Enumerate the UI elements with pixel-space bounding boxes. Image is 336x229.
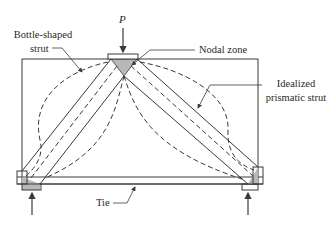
idealized-strut-label-line1: Idealized bbox=[262, 78, 330, 90]
tie-leader bbox=[113, 187, 135, 203]
right-bottle-strut bbox=[124, 62, 254, 180]
bottle-strut-label-line1: Bottle-shaped bbox=[11, 29, 75, 41]
bottle-strut-leader bbox=[52, 48, 82, 72]
prismatic-strut-leader bbox=[198, 85, 262, 108]
right-prismatic-strut bbox=[124, 59, 258, 184]
beam-outline bbox=[22, 59, 258, 184]
load-label: P bbox=[119, 13, 126, 25]
bottle-strut-label-line2: strut bbox=[30, 43, 49, 55]
left-prismatic-strut bbox=[22, 59, 124, 184]
right-support-plate bbox=[242, 167, 263, 190]
load-bearing-plate bbox=[108, 54, 138, 59]
nodal-zone-label: Nodal zone bbox=[199, 44, 247, 56]
idealized-strut-label-line2: prismatic strut bbox=[258, 92, 334, 104]
tie bbox=[17, 177, 263, 184]
tie-label: Tie bbox=[96, 197, 110, 209]
